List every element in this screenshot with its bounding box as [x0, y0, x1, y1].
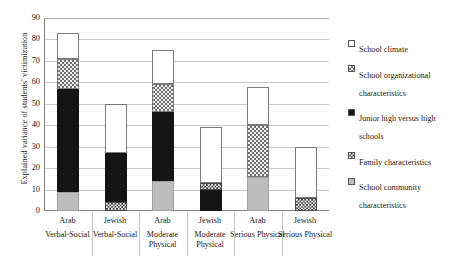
- bar-segment-climate[interactable]: [105, 104, 127, 153]
- bar-column[interactable]: [282, 18, 330, 211]
- legend-swatch-icon: [348, 65, 355, 72]
- y-tick-70: 70: [6, 57, 40, 65]
- x-label-separator: [234, 212, 235, 256]
- stacked-bar[interactable]: [200, 127, 222, 211]
- stacked-bar[interactable]: [152, 50, 174, 211]
- legend-label: School community characteristics: [359, 183, 421, 210]
- legend-label: School climate: [359, 45, 408, 54]
- bar-segment-junior_high[interactable]: [152, 112, 174, 181]
- y-tick-10: 10: [6, 186, 40, 194]
- y-tick-90: 90: [6, 14, 40, 22]
- legend-item-family[interactable]: Family characteristics: [348, 151, 452, 169]
- bar-segment-family[interactable]: [200, 183, 222, 189]
- x-label-group: Jewish: [278, 216, 333, 225]
- bar-column[interactable]: [187, 18, 235, 211]
- bar-segment-family[interactable]: [295, 198, 317, 211]
- y-tick-20: 20: [6, 164, 40, 172]
- legend-item-climate[interactable]: School climate: [348, 38, 452, 56]
- legend-swatch-icon: [348, 40, 355, 47]
- x-axis-label: ArabVerbal-Social: [44, 212, 92, 260]
- legend-label: Family characteristics: [359, 158, 431, 167]
- bar-segment-community[interactable]: [152, 181, 174, 211]
- stacked-bar[interactable]: [247, 87, 269, 211]
- bar-segment-community[interactable]: [57, 192, 79, 211]
- legend-swatch-icon: [348, 152, 355, 159]
- bar-segment-climate[interactable]: [200, 127, 222, 183]
- stacked-bar[interactable]: [295, 147, 317, 211]
- legend-item-junior_high[interactable]: Junior high versus high schools: [348, 107, 452, 143]
- x-label-separator: [187, 212, 188, 256]
- x-label-separator: [282, 212, 283, 256]
- stacked-bar-chart: Explained variance of students' victimiz…: [0, 0, 452, 268]
- bar-segment-junior_high[interactable]: [105, 153, 127, 202]
- x-axis-label: JewishModerate Physical: [187, 212, 235, 260]
- y-tick-50: 50: [6, 100, 40, 108]
- chart-legend: School climateSchool organizational char…: [348, 38, 452, 220]
- x-label-separator: [139, 212, 140, 256]
- y-tick-80: 80: [6, 35, 40, 43]
- x-axis-label: JewishVerbal-Social: [92, 212, 140, 260]
- bar-segment-climate[interactable]: [152, 50, 174, 84]
- x-axis-label: ArabModerate Physical: [139, 212, 187, 260]
- x-axis-labels: ArabVerbal-SocialJewishVerbal-SocialArab…: [44, 212, 329, 260]
- stacked-bar[interactable]: [57, 33, 79, 211]
- y-tick-40: 40: [6, 121, 40, 129]
- y-tick-30: 30: [6, 143, 40, 151]
- x-axis-label: ArabSerious Physical: [234, 212, 282, 260]
- y-tick-0: 0: [6, 207, 40, 215]
- bar-segment-climate[interactable]: [247, 87, 269, 126]
- bar-column[interactable]: [92, 18, 140, 211]
- x-label-type: Serious Physical: [276, 230, 335, 240]
- bar-column[interactable]: [139, 18, 187, 211]
- stacked-bar[interactable]: [105, 104, 127, 211]
- bar-segment-climate[interactable]: [57, 33, 79, 59]
- bar-segment-organizational[interactable]: [57, 59, 79, 89]
- bar-segment-junior_high[interactable]: [200, 190, 222, 211]
- legend-swatch-icon: [348, 109, 355, 116]
- bar-column[interactable]: [234, 18, 282, 211]
- legend-label: Junior high versus high schools: [359, 114, 436, 141]
- plot-area: [44, 18, 329, 211]
- bar-segment-family[interactable]: [105, 202, 127, 211]
- bar-column[interactable]: [44, 18, 92, 211]
- legend-label: School organizational characteristics: [359, 71, 430, 98]
- x-label-separator: [92, 212, 93, 256]
- bar-segment-organizational[interactable]: [247, 125, 269, 176]
- bar-segment-organizational[interactable]: [152, 84, 174, 112]
- x-axis-label: JewishSerious Physical: [282, 212, 330, 260]
- legend-item-organizational[interactable]: School organizational characteristics: [348, 64, 452, 100]
- bar-series: [44, 18, 329, 211]
- legend-swatch-icon: [348, 178, 355, 185]
- y-tick-60: 60: [6, 78, 40, 86]
- legend-item-community[interactable]: School community characteristics: [348, 176, 452, 212]
- bar-segment-junior_high[interactable]: [57, 89, 79, 192]
- bar-segment-community[interactable]: [247, 177, 269, 211]
- bar-segment-climate[interactable]: [295, 147, 317, 198]
